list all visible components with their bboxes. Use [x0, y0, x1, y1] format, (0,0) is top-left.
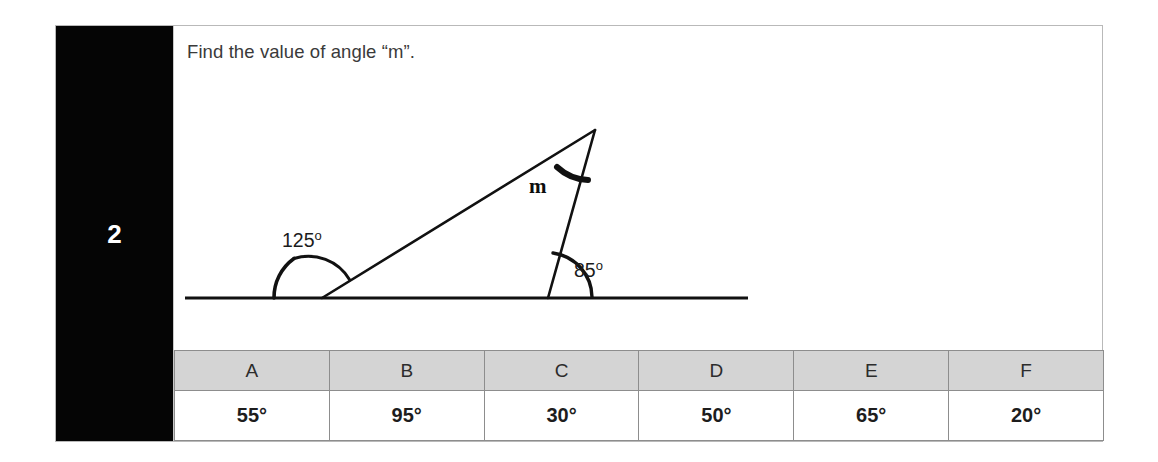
answer-header-d[interactable]: D	[639, 351, 794, 391]
geometry-figure-svg: 125o 85o m	[174, 81, 1103, 353]
answer-option-b[interactable]: 95°	[329, 391, 484, 441]
answer-option-f[interactable]: 20°	[949, 391, 1104, 441]
question-prompt: Find the value of angle “m”.	[187, 41, 415, 63]
answer-header-row: A B C D E F	[175, 351, 1104, 391]
question-number-rail: 2	[56, 26, 173, 441]
angle-arc-125-tail	[294, 256, 350, 279]
geometry-figure: 125o 85o m	[174, 81, 1103, 353]
answer-header-f[interactable]: F	[949, 351, 1104, 391]
angle-label-125: 125o	[282, 228, 322, 251]
answer-header-c[interactable]: C	[484, 351, 639, 391]
answer-option-e[interactable]: 65°	[794, 391, 949, 441]
answer-value-row: 55° 95° 30° 50° 65° 20°	[175, 391, 1104, 441]
question-number: 2	[107, 221, 121, 247]
question-card: 2 Find the value of angle “m”. 125	[55, 25, 1103, 442]
angle-label-85: 85o	[574, 258, 603, 281]
angle-arc-125	[274, 259, 294, 299]
answer-header-b[interactable]: B	[329, 351, 484, 391]
answer-option-a[interactable]: 55°	[175, 391, 330, 441]
question-body: Find the value of angle “m”. 125o	[173, 26, 1102, 441]
answer-header-e[interactable]: E	[794, 351, 949, 391]
answer-header-a[interactable]: A	[175, 351, 330, 391]
answer-options-table: A B C D E F 55° 95° 30° 50° 65° 20°	[174, 350, 1104, 441]
angle-label-m: m	[529, 174, 547, 198]
answer-option-d[interactable]: 50°	[639, 391, 794, 441]
answer-option-c[interactable]: 30°	[484, 391, 639, 441]
